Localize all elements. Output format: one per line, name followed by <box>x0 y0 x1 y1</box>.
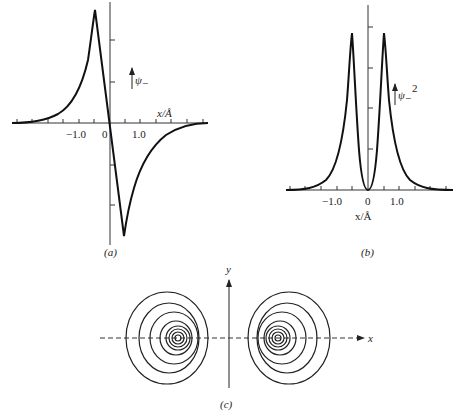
panel-b-y-label-sub: − <box>405 92 411 104</box>
figure-canvas: −1.0 0 1.0 x/Å ψ − (a) −1.0 0 1.0 x/Å <box>0 0 457 419</box>
panel-a-x-label: x/Å <box>156 107 172 119</box>
panel-b-tick-neg: −1.0 <box>322 195 342 207</box>
panel-c-caption: (c) <box>220 398 233 411</box>
panel-a-y-label-sub: − <box>142 77 148 89</box>
panel-c-x-label: x <box>367 332 373 344</box>
panel-a-tick-neg: −1.0 <box>66 128 86 140</box>
panel-b-caption: (b) <box>361 246 374 259</box>
panel-b-y-label-sup: 2 <box>412 82 418 94</box>
panel-a: −1.0 0 1.0 x/Å ψ − (a) <box>12 2 208 259</box>
panel-a-y-label: ψ <box>135 74 142 86</box>
panel-c-y-label: y <box>225 263 231 275</box>
panel-a-caption: (a) <box>104 246 117 259</box>
panel-b-psi-squared-curve <box>286 33 453 190</box>
panel-a-tick-pos: 1.0 <box>132 128 146 140</box>
panel-b-y-ticks <box>368 27 373 149</box>
panel-b-x-label: x/Å <box>355 210 372 222</box>
panel-c: y x (c) <box>100 263 373 411</box>
panel-b-tick-pos: 1.0 <box>390 195 404 207</box>
panel-b-tick-zero: 0 <box>365 195 371 207</box>
panel-a-tick-zero: 0 <box>102 128 108 140</box>
panel-b: −1.0 0 1.0 x/Å ψ − 2 (b) <box>286 5 453 259</box>
panel-b-y-label: ψ <box>398 89 405 101</box>
